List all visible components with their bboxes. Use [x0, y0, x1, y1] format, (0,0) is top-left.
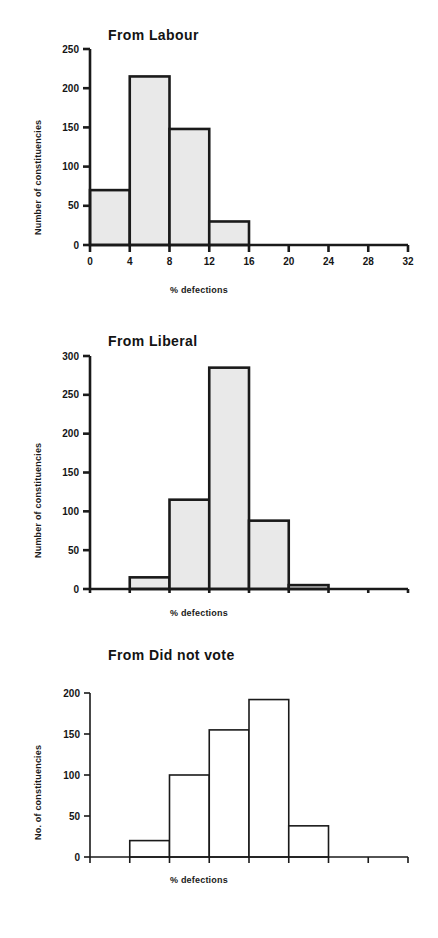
plot-area-did-not-vote: 050100150200048121620242832 — [0, 625, 438, 865]
y-axis-tick-label: 100 — [62, 506, 79, 517]
histogram-bar — [130, 577, 170, 589]
x-axis-tick-label: 12 — [204, 256, 216, 267]
histogram-bar — [130, 841, 170, 857]
histogram-bar — [249, 700, 289, 857]
y-axis-tick-label: 200 — [62, 83, 79, 94]
histogram-bar — [209, 730, 249, 857]
y-axis-tick-label: 100 — [62, 161, 79, 172]
x-axis-tick-label: 32 — [402, 256, 414, 267]
x-axis-tick-label: 24 — [323, 256, 335, 267]
histogram-bar — [249, 521, 289, 589]
x-axis-tick-label: 4 — [127, 256, 133, 267]
histogram-bar — [170, 129, 210, 245]
x-axis-tick-label: 16 — [243, 256, 255, 267]
y-axis-tick-label: 0 — [73, 584, 79, 594]
y-axis-tick-label: 150 — [62, 467, 79, 478]
histogram-bar — [170, 500, 210, 589]
histogram-bar — [289, 826, 329, 857]
x-axis-label-did-not-vote: % defections — [170, 875, 228, 885]
y-axis-tick-label: 250 — [62, 389, 79, 400]
x-axis-label-liberal: % defections — [170, 608, 228, 618]
y-axis-tick-label: 0 — [74, 852, 80, 863]
chart-panel-liberal: From Liberal Number of constituencies 05… — [0, 313, 438, 625]
histogram-bar — [170, 775, 210, 857]
x-axis-tick-label: 20 — [283, 256, 295, 267]
y-axis-tick-label: 50 — [68, 545, 80, 556]
plot-area-labour: 050100150200250048121620242832 — [0, 0, 438, 270]
x-axis-tick-label: 0 — [87, 256, 93, 267]
y-axis-tick-label: 100 — [63, 770, 80, 781]
y-axis-tick-label: 50 — [69, 811, 81, 822]
x-axis-tick-label: 8 — [167, 256, 173, 267]
plot-area-liberal: 050100150200250300048121620242832 — [0, 313, 438, 593]
y-axis-tick-label: 150 — [62, 122, 79, 133]
y-axis-tick-label: 200 — [62, 428, 79, 439]
y-axis-tick-label: 250 — [62, 44, 79, 55]
chart-panel-labour: From Labour Number of constituencies 050… — [0, 0, 438, 313]
histogram-bar — [90, 190, 130, 245]
x-axis-label-labour: % defections — [170, 285, 228, 295]
y-axis-tick-label: 50 — [68, 200, 80, 211]
x-axis-tick-label: 28 — [363, 256, 375, 267]
y-axis-tick-label: 0 — [73, 240, 79, 251]
histogram-bar — [209, 368, 249, 589]
y-axis-tick-label: 300 — [62, 351, 79, 362]
y-axis-tick-label: 200 — [63, 688, 80, 699]
histogram-bar — [130, 76, 170, 245]
figure-page: From Labour Number of constituencies 050… — [0, 0, 438, 938]
chart-panel-did-not-vote: From Did not vote No. of constituencies … — [0, 625, 438, 938]
y-axis-tick-label: 150 — [63, 729, 80, 740]
histogram-bar — [209, 221, 249, 245]
